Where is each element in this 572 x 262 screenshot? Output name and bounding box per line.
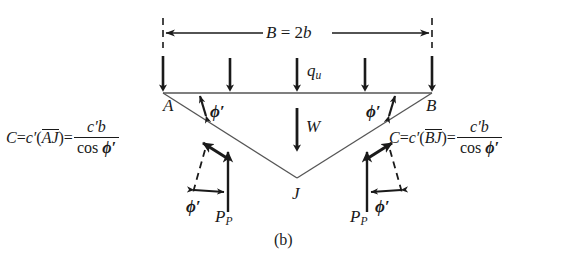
- reference-dashed-line-left: [192, 150, 205, 196]
- angle-label-phi-upper-right: ϕ′: [366, 103, 381, 120]
- bearing-capacity-wedge-figure: B = 2b qu A B J W ϕ′ ϕ′ ϕ′ ϕ′ PP PP C = …: [0, 0, 572, 262]
- dimension-label-B: B = 2b: [266, 24, 311, 41]
- angle-marker-phi-upper-left: [200, 96, 206, 116]
- load-arrows-qu: [163, 56, 432, 88]
- passive-force-label-left: PP: [215, 208, 232, 228]
- angle-label-phi-lower-right: ϕ′: [375, 198, 390, 215]
- vertex-label-A: A: [163, 97, 173, 114]
- segment-overline-BJ: BJ: [425, 129, 442, 147]
- vertex-label-J: J: [292, 185, 300, 202]
- weight-label-W: W: [306, 118, 320, 135]
- angle-marker-phi-lower-left: [194, 190, 224, 192]
- angle-marker-phi-upper-right: [389, 96, 395, 116]
- vertex-label-B: B: [426, 97, 436, 114]
- figure-caption: (b): [274, 232, 293, 248]
- angle-label-phi-upper-left: ϕ′: [210, 103, 225, 120]
- angle-marker-phi-lower-right: [371, 190, 401, 192]
- cohesion-equation-left: C = c′(AJ) = c′b cos ϕ′: [6, 118, 120, 157]
- angle-label-phi-lower-left: ϕ′: [186, 198, 201, 215]
- cohesion-arrow-right: [365, 143, 392, 160]
- passive-force-label-right: PP: [350, 208, 367, 228]
- load-label-qu: qu: [307, 62, 321, 82]
- cohesion-equation-right: C = c′(BJ) = c′b cos ϕ′: [389, 118, 503, 157]
- cohesion-arrow-left: [203, 143, 230, 160]
- fraction-left: c′b cos ϕ′: [74, 118, 119, 157]
- segment-overline-AJ: AJ: [42, 129, 59, 147]
- fraction-right: c′b cos ϕ′: [457, 118, 502, 157]
